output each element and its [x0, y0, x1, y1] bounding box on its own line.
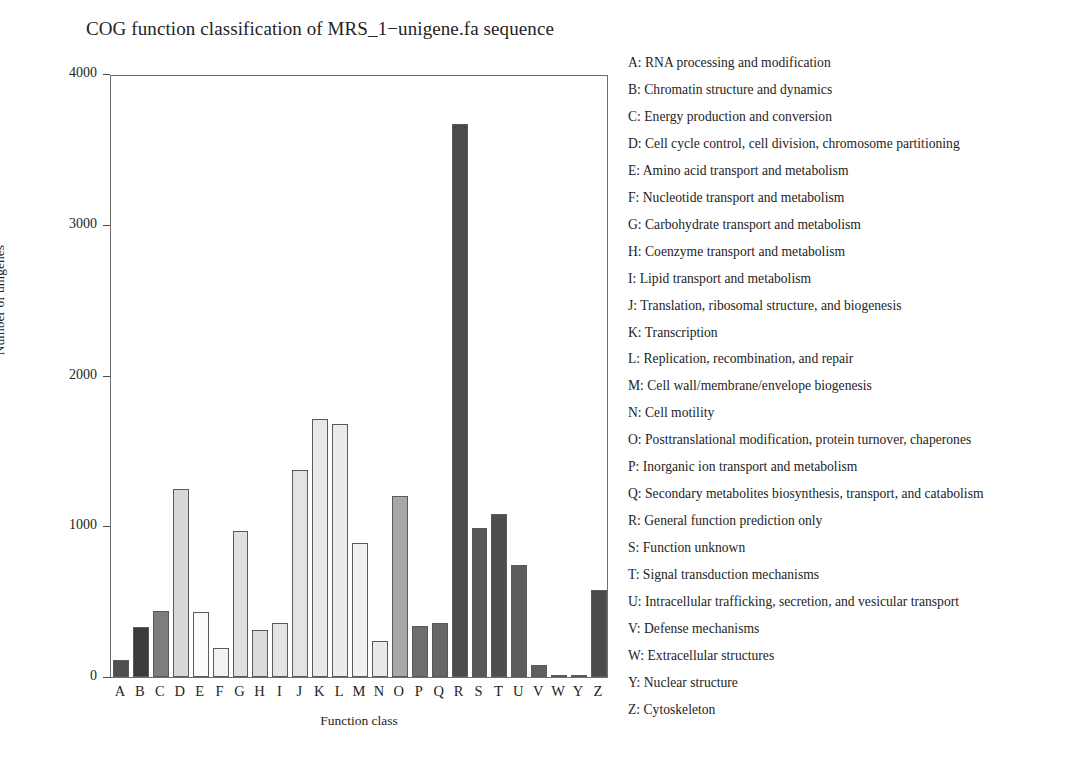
x-tick-label-Z: Z [594, 683, 603, 700]
x-tick-label-S: S [474, 683, 482, 700]
legend-item-M: M: Cell wall/membrane/envelope biogenesi… [628, 373, 1078, 400]
y-axis-title: Number of unigenes [0, 190, 8, 410]
bar-F [213, 648, 229, 677]
x-tick-label-M: M [353, 683, 366, 700]
legend-item-T: T: Signal transduction mechanisms [628, 562, 1078, 589]
legend-item-Z: Z: Cytoskeleton [628, 697, 1078, 724]
y-tick-label: 4000 [69, 65, 97, 81]
bar-M [352, 543, 368, 677]
x-tick-label-C: C [155, 683, 165, 700]
x-tick-label-I: I [277, 683, 282, 700]
x-tick-label-A: A [115, 683, 125, 700]
legend-item-D: D: Cell cycle control, cell division, ch… [628, 131, 1078, 158]
bar-Y [571, 675, 587, 677]
bar-R [452, 124, 468, 677]
legend-item-W: W: Extracellular structures [628, 643, 1078, 670]
legend-item-J: J: Translation, ribosomal structure, and… [628, 293, 1078, 320]
bar-K [312, 419, 328, 677]
legend: A: RNA processing and modificationB: Chr… [628, 50, 1078, 724]
legend-item-R: R: General function prediction only [628, 508, 1078, 535]
x-tick-label-D: D [174, 683, 184, 700]
x-tick-label-W: W [551, 683, 565, 700]
x-tick-label-H: H [254, 683, 264, 700]
x-tick-label-J: J [296, 683, 302, 700]
x-tick-label-R: R [454, 683, 464, 700]
legend-item-Q: Q: Secondary metabolites biosynthesis, t… [628, 481, 1078, 508]
x-tick-label-B: B [135, 683, 145, 700]
legend-item-N: N: Cell motility [628, 400, 1078, 427]
plot-area [110, 75, 608, 678]
bar-D [173, 489, 189, 677]
legend-item-B: B: Chromatin structure and dynamics [628, 77, 1078, 104]
legend-item-U: U: Intracellular trafficking, secretion,… [628, 589, 1078, 616]
bar-T [491, 514, 507, 677]
y-tick-mark [103, 376, 110, 377]
bar-H [252, 630, 268, 677]
legend-item-V: V: Defense mechanisms [628, 616, 1078, 643]
bar-Z [591, 590, 607, 677]
x-tick-label-N: N [374, 683, 384, 700]
page-title: COG function classification of MRS_1−uni… [0, 18, 640, 40]
legend-item-A: A: RNA processing and modification [628, 50, 1078, 77]
bar-S [472, 528, 488, 677]
bar-C [153, 611, 169, 677]
legend-item-S: S: Function unknown [628, 535, 1078, 562]
y-tick-mark [103, 225, 110, 226]
legend-item-G: G: Carbohydrate transport and metabolism [628, 212, 1078, 239]
y-tick-mark [103, 526, 110, 527]
bar-J [292, 470, 308, 677]
legend-item-E: E: Amino acid transport and metabolism [628, 158, 1078, 185]
y-tick-mark [103, 74, 110, 75]
x-tick-label-V: V [533, 683, 543, 700]
y-tick-label: 0 [90, 668, 97, 684]
legend-item-P: P: Inorganic ion transport and metabolis… [628, 454, 1078, 481]
legend-item-K: K: Transcription [628, 320, 1078, 347]
y-tick-label: 2000 [69, 367, 97, 383]
legend-item-O: O: Posttranslational modification, prote… [628, 427, 1078, 454]
bar-P [412, 626, 428, 677]
x-tick-label-Y: Y [573, 683, 583, 700]
legend-item-F: F: Nucleotide transport and metabolism [628, 185, 1078, 212]
bar-Q [432, 623, 448, 677]
x-tick-label-G: G [234, 683, 244, 700]
bar-I [272, 623, 288, 677]
x-tick-label-E: E [195, 683, 204, 700]
legend-item-C: C: Energy production and conversion [628, 104, 1078, 131]
x-tick-label-P: P [415, 683, 423, 700]
legend-item-Y: Y: Nuclear structure [628, 670, 1078, 697]
bar-L [332, 424, 348, 677]
x-tick-label-K: K [314, 683, 324, 700]
bar-A [113, 660, 129, 677]
bar-B [133, 627, 149, 677]
bar-G [233, 531, 249, 677]
x-tick-label-Q: Q [433, 683, 443, 700]
bar-W [551, 675, 567, 677]
bar-V [531, 665, 547, 677]
bar-N [372, 641, 388, 677]
legend-item-L: L: Replication, recombination, and repai… [628, 346, 1078, 373]
x-tick-label-U: U [513, 683, 523, 700]
x-tick-label-L: L [335, 683, 344, 700]
legend-item-H: H: Coenzyme transport and metabolism [628, 239, 1078, 266]
bar-O [392, 496, 408, 677]
y-tick-label: 1000 [69, 517, 97, 533]
bar-E [193, 612, 209, 677]
y-tick-mark [103, 677, 110, 678]
x-axis-title: Function class [110, 713, 608, 729]
x-tick-label-O: O [394, 683, 404, 700]
x-tick-label-T: T [494, 683, 503, 700]
y-tick-label: 3000 [69, 216, 97, 232]
legend-item-I: I: Lipid transport and metabolism [628, 266, 1078, 293]
x-tick-label-F: F [216, 683, 224, 700]
bar-U [511, 565, 527, 677]
bars-layer [111, 76, 607, 677]
